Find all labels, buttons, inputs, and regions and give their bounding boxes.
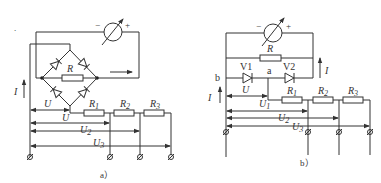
u-label: U: [242, 84, 250, 95]
r3-label: R3: [149, 98, 160, 111]
resistor-r3: [144, 110, 164, 116]
r3-label: R3: [347, 85, 358, 98]
circuit-diagrams: . − +: [0, 0, 381, 183]
resistor-r: [62, 75, 83, 81]
diode-v1-icon: [243, 73, 252, 83]
r1-label: R1: [88, 98, 99, 111]
r2-label: R2: [317, 85, 328, 98]
current-right-label: I: [324, 65, 329, 76]
meter-b: − +: [226, 18, 313, 46]
caption-a: a）: [100, 170, 113, 180]
meter-minus: −: [95, 20, 100, 30]
resistor-r3: [343, 97, 363, 103]
stray-dot: .: [14, 23, 16, 33]
terminal-icon: [305, 129, 311, 135]
terminal-icon: [168, 154, 174, 160]
resistor-r2: [114, 110, 134, 116]
current-label: I: [13, 86, 18, 97]
u2-label: U2: [278, 112, 289, 125]
u3-label: U3: [93, 137, 104, 150]
v1-label: V1: [240, 61, 252, 72]
meter-plus: +: [125, 20, 130, 30]
terminal-icon: [27, 154, 33, 160]
meter-minus: −: [256, 21, 261, 31]
wire: [268, 78, 282, 100]
node-b-label: b: [215, 72, 220, 83]
figure-a: . − +: [13, 19, 174, 180]
u2-label: U2: [80, 124, 91, 137]
meter-plus: +: [286, 21, 291, 31]
terminal-icon: [137, 154, 143, 160]
diode-v2-icon: [285, 73, 294, 83]
caption-b: b）: [300, 158, 314, 168]
current-left-label: I: [207, 92, 212, 103]
node-a-label: a: [267, 65, 272, 76]
resistor-r: [260, 55, 281, 61]
terminal-icon: [336, 129, 342, 135]
terminal-icon: [223, 129, 229, 135]
wire: [70, 106, 84, 113]
r2-label: R2: [119, 98, 130, 111]
figure-b: − + R V1 V2 a b I I: [207, 18, 373, 168]
resistor-r1: [282, 97, 302, 103]
u3-label: U3: [292, 121, 303, 134]
terminal-icon: [107, 154, 113, 160]
wire: [363, 100, 370, 155]
meter-a: − +: [36, 19, 139, 45]
v2-label: V2: [283, 61, 295, 72]
r1-label: R1: [286, 85, 297, 98]
u-label: U: [44, 98, 52, 109]
resistor-r-label: R: [66, 63, 73, 74]
u1-label: U: [62, 112, 70, 123]
resistor-r-label: R: [266, 43, 273, 54]
terminal-icon: [367, 129, 373, 135]
resistor-r1: [84, 110, 104, 116]
wire: [164, 113, 171, 155]
resistor-r2: [313, 97, 333, 103]
